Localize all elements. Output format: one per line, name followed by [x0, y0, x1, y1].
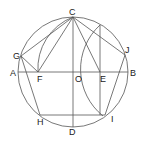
label-J: J [125, 45, 130, 55]
segment-CE [73, 17, 100, 72]
segment-CJ [73, 17, 125, 55]
segment-JI [105, 55, 125, 115]
label-H: H [37, 117, 44, 127]
label-E: E [100, 74, 106, 84]
label-I: I [111, 114, 114, 124]
pentagon-construction-diagram: C G J A B F O E H I D [0, 0, 144, 142]
label-F: F [37, 74, 43, 84]
label-C: C [69, 7, 76, 17]
label-B: B [130, 68, 136, 78]
label-O: O [75, 74, 82, 84]
label-G: G [13, 51, 20, 61]
label-D: D [69, 127, 76, 137]
label-A: A [10, 68, 16, 78]
segment-CG [21, 17, 73, 56]
